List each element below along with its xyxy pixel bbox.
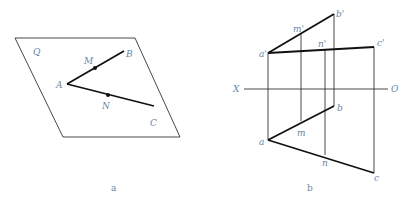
label-b-prime: b' xyxy=(336,9,344,19)
line-ac xyxy=(67,84,154,106)
label-n: N xyxy=(101,101,111,111)
label-m-top: m xyxy=(297,128,306,138)
point-n xyxy=(106,93,110,97)
label-a-top: a xyxy=(259,137,264,147)
label-x: X xyxy=(232,84,240,94)
label-b-top: b xyxy=(337,103,343,113)
caption-a: a xyxy=(111,183,117,193)
label-c: C xyxy=(150,118,157,128)
figure-b: X O b' m' n' a' c' b m a n c b xyxy=(232,9,399,193)
label-c-prime: c' xyxy=(377,38,385,48)
label-a: A xyxy=(55,80,63,90)
label-n-prime: n' xyxy=(318,39,326,49)
label-q: Q xyxy=(33,47,41,57)
label-o: O xyxy=(391,84,399,94)
label-m-prime: m' xyxy=(293,24,304,34)
diagram-canvas: Q M B A N C a X O b' m' n' a' c' b m a xyxy=(0,0,410,199)
figure-a: Q M B A N C a xyxy=(15,38,180,193)
line-ac-top xyxy=(268,140,374,173)
label-b: B xyxy=(125,49,133,59)
point-m xyxy=(93,66,97,70)
label-m: M xyxy=(83,56,94,66)
label-a-prime: a' xyxy=(259,49,267,59)
caption-b: b xyxy=(307,183,313,193)
label-c-top: c xyxy=(374,173,379,183)
label-n-top: n xyxy=(322,158,328,168)
